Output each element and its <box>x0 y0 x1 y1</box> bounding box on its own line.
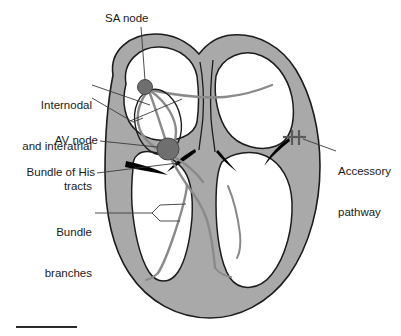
label-bundle-branches-line2: branches <box>0 267 92 281</box>
label-bundle-branches-line1: Bundle <box>0 226 92 240</box>
label-accessory-line2: pathway <box>338 206 391 220</box>
label-bundle-of-his: Bundle of His <box>0 166 95 180</box>
label-accessory-pathway: Accessory pathway <box>338 138 391 246</box>
label-internodal-line3: tracts <box>0 180 92 194</box>
label-accessory-line1: Accessory <box>338 165 391 179</box>
heart-conduction-diagram: SA node Internodal and interatrial tract… <box>0 0 401 336</box>
label-av-node: AV node <box>0 134 98 148</box>
label-internodal-line1: Internodal <box>0 99 92 113</box>
myocardium-wall <box>105 34 320 318</box>
atrioventricular-node <box>157 138 179 160</box>
label-sa-node: SA node <box>105 12 148 26</box>
sinoatrial-node <box>138 80 153 95</box>
label-bundle-branches: Bundle branches <box>0 199 92 307</box>
